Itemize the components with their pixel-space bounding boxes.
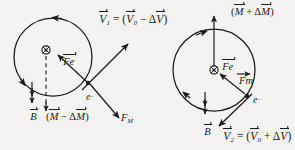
right-moment-label: (M + ΔM) [231, 7, 274, 18]
right-field-label: B [204, 127, 211, 138]
left-field-label: B [30, 112, 37, 123]
left-electron-label: e− [86, 93, 94, 103]
left-electric-force-label: Fe [63, 57, 74, 68]
left-panel [14, 18, 128, 119]
right-center-symbol [210, 66, 218, 74]
left-moment-label: (M − ΔM) [46, 112, 89, 123]
right-magnetic-force-label: Fm [239, 76, 253, 87]
left-velocity-arrow [82, 44, 128, 90]
right-electric-force-label: Fe [222, 62, 233, 73]
left-velocity-label: V1 = (V0 − ΔV) [99, 14, 167, 27]
physics-figure: V1 = (V0 − ΔV) Fe e− B (M − ΔM) FM (M + … [0, 0, 295, 150]
right-panel [173, 16, 255, 126]
left-magnetic-force-label: FM [121, 113, 133, 124]
left-orbit-circle [14, 18, 92, 96]
left-magnetic-force-arrow [90, 84, 119, 118]
right-velocity-label: V2 = (V0 + ΔV) [223, 131, 291, 144]
right-electron-label: e− [253, 96, 261, 106]
left-orbit-direction-arrow-2 [21, 79, 26, 86]
left-center-symbol [42, 46, 50, 54]
